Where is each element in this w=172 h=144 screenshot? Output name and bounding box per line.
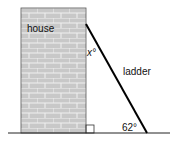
house-label: house bbox=[27, 23, 55, 34]
ladder-label: ladder bbox=[123, 66, 151, 77]
right-angle-marker bbox=[86, 125, 94, 133]
ladder-line bbox=[86, 24, 147, 133]
top-angle-label: x° bbox=[86, 47, 96, 58]
ladder-diagram: house x° ladder 62° bbox=[0, 0, 172, 144]
bottom-angle-label: 62° bbox=[122, 122, 137, 133]
